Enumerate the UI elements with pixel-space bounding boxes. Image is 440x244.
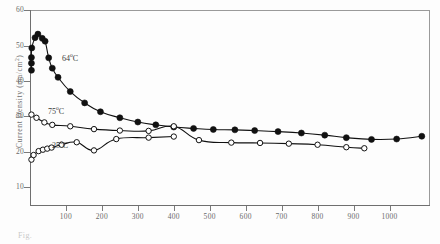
data-point-open — [146, 135, 151, 140]
data-point-open — [68, 124, 73, 129]
data-point-filled — [343, 135, 349, 141]
data-point-filled — [191, 125, 197, 131]
data-point-filled — [210, 126, 216, 132]
series-label-75c: 75oC — [48, 105, 64, 116]
data-point-filled — [394, 136, 400, 142]
figure-caption: Fig. — [18, 231, 32, 240]
data-point-open — [257, 140, 262, 145]
data-point-open — [146, 128, 151, 133]
data-point-open — [315, 142, 320, 147]
data-point-filled — [67, 89, 73, 95]
data-point-filled — [97, 109, 103, 115]
chart-figure: Current Density (ma/cm2) 605040302010 10… — [0, 0, 440, 244]
data-point-open — [34, 115, 39, 120]
data-point-open — [171, 134, 176, 139]
data-point-filled — [153, 122, 159, 128]
series-64-c — [28, 31, 424, 142]
data-point-open — [114, 136, 119, 141]
series-label-64c-unit: C — [73, 54, 78, 63]
data-point-filled — [368, 136, 374, 142]
series-line — [31, 34, 421, 140]
data-point-open — [117, 128, 122, 133]
data-point-open — [286, 141, 291, 146]
data-point-open — [91, 148, 96, 153]
data-point-open — [42, 120, 47, 125]
data-point-filled — [29, 45, 35, 51]
data-point-filled — [49, 65, 55, 71]
data-point-filled — [298, 130, 304, 136]
data-point-open — [229, 140, 234, 145]
data-point-filled — [232, 127, 238, 133]
data-point-filled — [275, 129, 281, 135]
data-point-filled — [117, 115, 123, 121]
data-point-filled — [135, 119, 141, 125]
series-label-64c-value: 64 — [62, 54, 70, 63]
data-point-open — [91, 126, 96, 131]
data-point-filled — [322, 132, 328, 138]
data-point-filled — [42, 38, 48, 44]
data-point-filled — [419, 133, 425, 139]
data-point-filled — [252, 128, 258, 134]
series-label-25c-value: 25 — [52, 141, 60, 150]
data-point-filled — [82, 100, 88, 106]
series-label-64c: 64oC — [62, 52, 78, 63]
series-line — [31, 115, 364, 149]
data-point-open — [171, 124, 176, 129]
data-point-open — [344, 145, 349, 150]
data-point-filled — [46, 55, 52, 61]
data-point-filled — [55, 74, 61, 80]
figure-root: Current Density (ma/cm2) 605040302010 10… — [0, 0, 440, 244]
data-point-filled — [28, 67, 34, 73]
series-label-25c: 25oC — [52, 139, 68, 150]
data-point-open — [74, 140, 79, 145]
data-point-filled — [28, 60, 34, 66]
data-point-open — [29, 112, 34, 117]
series-label-75c-value: 75 — [48, 107, 56, 116]
series-25-c — [29, 134, 177, 162]
data-point-open — [50, 122, 55, 127]
plot-area — [0, 0, 440, 244]
data-point-open — [31, 152, 36, 157]
series-label-75c-unit: C — [59, 107, 64, 116]
data-point-filled — [28, 55, 34, 61]
data-point-open — [362, 146, 367, 151]
data-point-open — [196, 137, 201, 142]
series-75-c — [29, 112, 367, 151]
series-label-25c-unit: C — [63, 141, 68, 150]
